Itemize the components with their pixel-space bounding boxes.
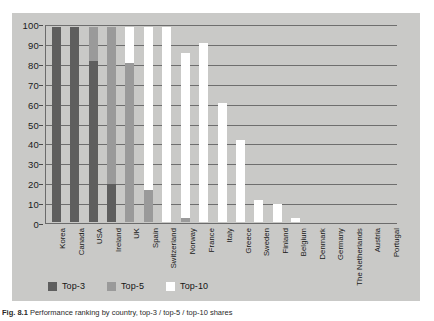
- bar-segment-top-5: [144, 190, 153, 222]
- bar-slot: [158, 25, 176, 222]
- x-axis-slot: The Netherlands: [343, 226, 362, 292]
- y-axis-tick-label: 60: [28, 99, 39, 110]
- bar-slot: [286, 25, 304, 222]
- legend-swatch-icon: [166, 282, 175, 291]
- bar-segment-top-10: [162, 27, 171, 222]
- bar-segment-top-10: [125, 27, 134, 63]
- bar-stack[interactable]: [236, 140, 245, 222]
- bar-segment-top-3: [89, 61, 98, 222]
- bar-slot: [231, 25, 249, 222]
- bar-slot: [250, 25, 268, 222]
- y-axis-tick-label: 90: [28, 39, 39, 50]
- y-axis-tick-mark: [39, 85, 43, 86]
- y-axis-tick-label: 40: [28, 139, 39, 150]
- x-axis-slot: Sweden: [250, 226, 269, 292]
- bar-stack[interactable]: [70, 27, 79, 222]
- x-axis-slot: Denmark: [305, 226, 324, 292]
- y-axis-tick-mark: [39, 224, 43, 225]
- bar-slot: [379, 25, 397, 222]
- y-axis-tick-label: 10: [28, 199, 39, 210]
- bar-segment-top-3: [52, 27, 61, 222]
- bar-segment-top-10: [181, 53, 190, 218]
- y-axis-tick-mark: [39, 65, 43, 66]
- bar-segment-top-5: [89, 27, 98, 61]
- plot-area: [45, 25, 397, 224]
- bar-stack[interactable]: [199, 43, 208, 222]
- bar-slot: [194, 25, 212, 222]
- bar-stack[interactable]: [89, 27, 98, 222]
- y-axis-tick-label: 100: [23, 20, 39, 31]
- bar-stack[interactable]: [52, 27, 61, 222]
- legend-label: Top-5: [121, 281, 144, 291]
- bar-segment-top-10: [291, 218, 300, 222]
- caption-label: Fig. 8.1: [2, 308, 28, 317]
- chart-frame: 1009080706050403020100 KoreaCanadaUSAIre…: [12, 13, 420, 301]
- bar-segment-top-3: [70, 27, 79, 222]
- legend-swatch-icon: [48, 282, 57, 291]
- bar-segment-top-10: [144, 27, 153, 190]
- bar-segment-top-10: [254, 200, 263, 222]
- bar-segment-top-3: [107, 184, 116, 222]
- y-axis-tick-label: 80: [28, 59, 39, 70]
- bar-slot: [360, 25, 378, 222]
- bar-slot: [102, 25, 120, 222]
- y-axis-tick-label: 30: [28, 159, 39, 170]
- bar-slot: [323, 25, 341, 222]
- bar-slot: [305, 25, 323, 222]
- x-axis-tick-label: Portugal: [392, 228, 401, 257]
- chart-legend: Top-3Top-5Top-10: [48, 281, 208, 291]
- legend-item[interactable]: Top-5: [107, 281, 144, 291]
- bar-slot: [176, 25, 194, 222]
- bar-stack[interactable]: [125, 27, 134, 222]
- x-axis-slot: Italy: [213, 226, 232, 292]
- y-axis-tick-mark: [39, 164, 43, 165]
- y-axis-tick-mark: [39, 204, 43, 205]
- bar-stack[interactable]: [107, 27, 116, 222]
- bar-stack[interactable]: [254, 200, 263, 222]
- bar-slot: [47, 25, 65, 222]
- bar-segment-top-10: [236, 140, 245, 222]
- legend-label: Top-3: [62, 281, 85, 291]
- y-axis-tick-mark: [39, 184, 43, 185]
- bar-stack[interactable]: [162, 27, 171, 222]
- x-axis-slot: Belgium: [287, 226, 306, 292]
- bar-slot: [121, 25, 139, 222]
- bar-segment-top-5: [125, 63, 134, 222]
- bar-slot: [65, 25, 83, 222]
- legend-label: Top-10: [180, 281, 208, 291]
- x-axis-slot: Portugal: [380, 226, 399, 292]
- bar-segment-top-5: [181, 218, 190, 222]
- bar-stack[interactable]: [144, 27, 153, 222]
- legend-swatch-icon: [107, 282, 116, 291]
- caption-text: Performance ranking by country, top-3 / …: [28, 308, 233, 317]
- bar-segment-top-5: [107, 27, 116, 184]
- legend-item[interactable]: Top-10: [166, 281, 208, 291]
- bar-slot: [213, 25, 231, 222]
- bar-slot: [342, 25, 360, 222]
- bar-stack[interactable]: [291, 218, 300, 222]
- x-axis-slot: Greece: [231, 226, 250, 292]
- x-axis-slot: Finland: [268, 226, 287, 292]
- bar-segment-top-10: [199, 43, 208, 222]
- y-axis-tick-label: 20: [28, 179, 39, 190]
- y-axis-tick-mark: [39, 144, 43, 145]
- bar-series-group: [47, 25, 397, 222]
- bar-segment-top-10: [218, 103, 227, 222]
- y-axis-tick-mark: [39, 125, 43, 126]
- chart-background: 1009080706050403020100 KoreaCanadaUSAIre…: [12, 13, 420, 301]
- legend-item[interactable]: Top-3: [48, 281, 85, 291]
- bar-stack[interactable]: [218, 103, 227, 222]
- bar-slot: [84, 25, 102, 222]
- y-axis-tick-label: 50: [28, 119, 39, 130]
- bar-stack[interactable]: [273, 204, 282, 222]
- bar-slot: [268, 25, 286, 222]
- y-axis-tick-mark: [39, 105, 43, 106]
- y-axis-tick-mark: [39, 25, 43, 26]
- figure-container: 1009080706050403020100 KoreaCanadaUSAIre…: [0, 0, 434, 321]
- bar-stack[interactable]: [181, 53, 190, 222]
- y-axis-tick-mark: [39, 45, 43, 46]
- bar-slot: [139, 25, 157, 222]
- bar-segment-top-10: [273, 204, 282, 222]
- y-axis-tick-label: 70: [28, 79, 39, 90]
- x-axis-slot: Germany: [324, 226, 343, 292]
